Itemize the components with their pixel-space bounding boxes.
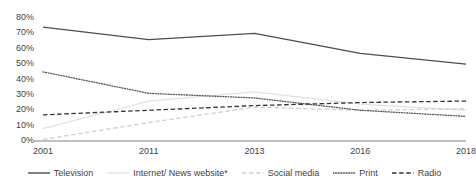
x-axis-tick-label: 2001 bbox=[33, 145, 53, 157]
legend-item[interactable]: Social media bbox=[242, 168, 320, 179]
legend-label: Internet/ News website* bbox=[133, 168, 228, 179]
solid-line-icon bbox=[28, 168, 50, 178]
x-axis-tick-label: 2018 bbox=[456, 145, 476, 157]
legend-item[interactable]: Television bbox=[28, 168, 94, 179]
solid-faint-line-icon bbox=[107, 168, 129, 178]
dashed-faint-line-icon bbox=[242, 168, 264, 178]
chart-legend: TelevisionInternet/ News website*Social … bbox=[0, 164, 476, 182]
series-line bbox=[43, 27, 466, 64]
series-line bbox=[43, 72, 466, 117]
x-axis-tick-label: 2011 bbox=[139, 145, 158, 157]
x-axis-tick-label: 2013 bbox=[244, 145, 264, 157]
dotted-line-icon bbox=[333, 168, 355, 178]
dashed-line-icon bbox=[392, 168, 414, 178]
x-axis: 20012011201320162018 bbox=[0, 145, 476, 161]
line-chart: 0%10%20%30%40%50%60%70%80% 2001201120132… bbox=[0, 0, 476, 185]
x-axis-tick-label: 2016 bbox=[350, 145, 370, 157]
legend-label: Radio bbox=[418, 168, 442, 179]
legend-label: Television bbox=[54, 168, 94, 179]
legend-item[interactable]: Radio bbox=[392, 168, 442, 179]
legend-item[interactable]: Internet/ News website* bbox=[107, 168, 228, 179]
legend-label: Print bbox=[359, 168, 378, 179]
legend-item[interactable]: Print bbox=[333, 168, 378, 179]
legend-label: Social media bbox=[268, 168, 320, 179]
